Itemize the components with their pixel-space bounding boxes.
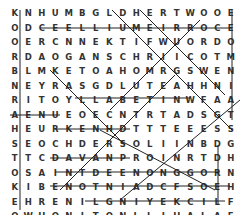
grid-letter[interactable]: N — [62, 180, 76, 194]
grid-letter[interactable]: E — [170, 122, 184, 136]
grid-letter[interactable]: M — [143, 64, 157, 78]
grid-letter[interactable]: I — [157, 50, 171, 64]
grid-letter[interactable]: E — [22, 35, 36, 49]
grid-letter[interactable]: N — [116, 195, 130, 209]
grid-letter[interactable]: K — [170, 195, 184, 209]
grid-letter[interactable]: K — [103, 35, 117, 49]
grid-letter[interactable]: O — [8, 21, 22, 35]
grid-letter[interactable]: E — [157, 79, 171, 93]
grid-letter[interactable]: H — [224, 151, 238, 165]
grid-letter[interactable]: O — [197, 50, 211, 64]
grid-letter[interactable]: O — [224, 35, 238, 49]
grid-letter[interactable]: I — [116, 180, 130, 194]
grid-letter[interactable]: A — [62, 151, 76, 165]
grid-letter[interactable]: N — [184, 137, 198, 151]
grid-letter[interactable]: E — [143, 6, 157, 20]
grid-letter[interactable]: T — [143, 79, 157, 93]
grid-letter[interactable]: N — [224, 64, 238, 78]
grid-letter[interactable]: G — [89, 79, 103, 93]
grid-letter[interactable]: W — [184, 93, 198, 107]
grid-letter[interactable]: I — [76, 209, 90, 215]
grid-letter[interactable]: L — [89, 21, 103, 35]
grid-letter[interactable]: M — [130, 21, 144, 35]
grid-letter[interactable]: T — [22, 151, 36, 165]
grid-letter[interactable]: E — [22, 108, 36, 122]
grid-letter[interactable]: I — [103, 21, 117, 35]
grid-letter[interactable]: E — [49, 180, 63, 194]
grid-letter[interactable]: P — [116, 151, 130, 165]
grid-letter[interactable]: G — [89, 6, 103, 20]
grid-letter[interactable]: N — [62, 209, 76, 215]
grid-letter[interactable]: T — [197, 151, 211, 165]
grid-letter[interactable]: H — [116, 64, 130, 78]
grid-letter[interactable]: N — [76, 35, 90, 49]
grid-letter[interactable]: I — [130, 195, 144, 209]
grid-letter[interactable]: I — [157, 93, 171, 107]
grid-letter[interactable]: S — [184, 64, 198, 78]
grid-letter[interactable]: O — [130, 137, 144, 151]
grid-letter[interactable]: C — [184, 195, 198, 209]
grid-letter[interactable]: L — [197, 209, 211, 215]
grid-letter[interactable]: D — [89, 166, 103, 180]
grid-letter[interactable]: R — [170, 21, 184, 35]
grid-letter[interactable]: N — [224, 166, 238, 180]
grid-letter[interactable]: T — [211, 50, 225, 64]
grid-letter[interactable]: E — [89, 137, 103, 151]
grid-letter[interactable]: N — [103, 151, 117, 165]
grid-letter[interactable]: N — [89, 122, 103, 136]
grid-letter[interactable]: E — [22, 79, 36, 93]
grid-letter[interactable]: F — [224, 209, 238, 215]
grid-letter[interactable]: R — [35, 35, 49, 49]
grid-letter[interactable]: D — [76, 137, 90, 151]
grid-letter[interactable]: N — [22, 6, 36, 20]
grid-letter[interactable]: O — [8, 209, 22, 215]
grid-letter[interactable]: C — [211, 21, 225, 35]
grid-letter[interactable]: O — [130, 64, 144, 78]
grid-letter[interactable]: L — [211, 195, 225, 209]
grid-letter[interactable]: I — [157, 137, 171, 151]
grid-letter[interactable]: S — [103, 50, 117, 64]
grid-letter[interactable]: C — [184, 50, 198, 64]
grid-letter[interactable]: N — [116, 209, 130, 215]
grid-letter[interactable]: N — [211, 79, 225, 93]
grid-letter[interactable]: E — [62, 108, 76, 122]
grid-letter[interactable]: L — [143, 209, 157, 215]
grid-letter[interactable]: G — [103, 195, 117, 209]
grid-letter[interactable]: I — [157, 151, 171, 165]
grid-letter[interactable]: T — [157, 108, 171, 122]
grid-letter[interactable]: E — [224, 6, 238, 20]
grid-letter[interactable]: G — [170, 64, 184, 78]
grid-letter[interactable]: I — [224, 79, 238, 93]
grid-letter[interactable]: E — [224, 21, 238, 35]
grid-letter[interactable]: A — [35, 166, 49, 180]
grid-letter[interactable]: V — [76, 151, 90, 165]
grid-letter[interactable]: F — [170, 180, 184, 194]
grid-letter[interactable]: S — [76, 79, 90, 93]
grid-letter[interactable]: H — [35, 209, 49, 215]
grid-letter[interactable]: R — [157, 6, 171, 20]
grid-letter[interactable]: E — [49, 195, 63, 209]
grid-letter[interactable]: N — [62, 166, 76, 180]
grid-letter[interactable]: N — [130, 166, 144, 180]
grid-letter[interactable]: N — [35, 108, 49, 122]
grid-letter[interactable]: W — [184, 6, 198, 20]
grid-letter[interactable]: N — [103, 180, 117, 194]
grid-letter[interactable]: T — [157, 122, 171, 136]
grid-letter[interactable]: R — [184, 151, 198, 165]
grid-letter[interactable]: L — [130, 209, 144, 215]
grid-letter[interactable]: O — [76, 180, 90, 194]
grid-letter[interactable]: D — [116, 6, 130, 20]
grid-letter[interactable]: E — [89, 108, 103, 122]
grid-letter[interactable]: I — [76, 195, 90, 209]
grid-letter[interactable]: W — [197, 64, 211, 78]
grid-letter[interactable]: I — [49, 166, 63, 180]
grid-letter[interactable]: N — [116, 108, 130, 122]
grid-letter[interactable]: A — [76, 50, 90, 64]
grid-letter[interactable]: L — [89, 93, 103, 107]
grid-letter[interactable]: O — [8, 35, 22, 49]
grid-letter[interactable]: S — [184, 180, 198, 194]
grid-letter[interactable]: D — [211, 151, 225, 165]
grid-letter[interactable]: K — [8, 180, 22, 194]
grid-letter[interactable]: E — [76, 122, 90, 136]
grid-letter[interactable]: T — [143, 93, 157, 107]
